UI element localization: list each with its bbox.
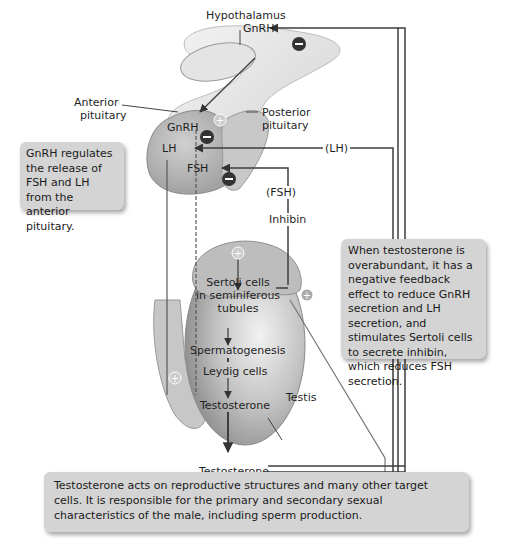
stimulate-symbol-pituitary: + [214,114,226,126]
label-inhibin: Inhibin [269,213,306,226]
inhibit-symbol-lh [200,130,214,144]
label-testis: Testis [286,391,316,404]
label-sertoli-2: in seminiferous [190,289,286,302]
svg-text:+: + [216,115,224,126]
svg-text:+: + [234,248,242,259]
stimulate-symbol-feedback: + [301,289,313,301]
label-anterior-pituitary-2: pituitary [80,109,126,122]
label-testosterone-inside: Testosterone [200,399,270,412]
label-gnrh-pituitary: GnRH [167,121,198,134]
label-hypothalamus: Hypothalamus [206,9,286,22]
label-sertoli-3: tubules [198,302,278,315]
label-leydig-cells: Leydig cells [203,365,267,378]
label-fsh: FSH [187,162,208,175]
stimulate-symbol-sertoli: + [232,247,244,259]
callout-gnrh-regulation: GnRH regulates the release of FSH and LH… [20,142,124,210]
inhibit-symbol-fsh [222,172,236,186]
svg-text:+: + [171,373,179,384]
callout-negative-feedback: When testosterone is overabundant, it ha… [341,239,486,359]
label-lh-path: (LH) [323,142,350,155]
label-lh: LH [162,142,176,155]
label-fsh-path: (FSH) [266,186,296,199]
label-gnrh-hypothalamus: GnRH [243,22,274,35]
label-sertoli-1: Sertoli cells [198,276,278,289]
label-anterior-pituitary-1: Anterior [74,96,118,109]
label-posterior-pituitary-2: pituitary [262,119,308,132]
inhibit-symbol-gnrh [292,37,306,51]
callout-testosterone-action: Testosterone acts on reproductive struct… [44,472,469,532]
stimulate-symbol-leydig: + [169,372,181,384]
label-posterior-pituitary-1: Posterior [262,106,311,119]
label-spermatogenesis: Spermatogenesis [190,344,286,357]
svg-text:+: + [303,290,311,301]
